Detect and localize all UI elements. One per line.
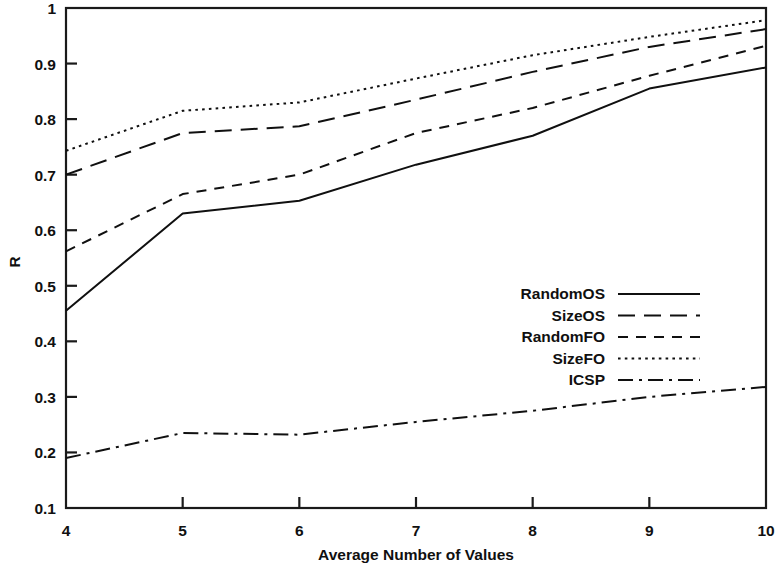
y-tick-label: 0.1 <box>34 500 56 517</box>
y-tick-label: 0.6 <box>34 222 56 239</box>
x-tick-label: 8 <box>528 522 537 539</box>
y-tick-label: 0.8 <box>34 111 56 128</box>
y-tick-label: 0.7 <box>34 167 56 184</box>
x-tick-label: 6 <box>295 522 304 539</box>
y-tick-label: 1 <box>47 0 56 17</box>
x-axis-ticks: 45678910 <box>62 497 775 539</box>
series-line-icsp <box>66 387 766 458</box>
legend-label-sizeos: SizeOS <box>552 307 605 324</box>
x-tick-label: 5 <box>178 522 187 539</box>
legend-label-icsp: ICSP <box>569 371 605 388</box>
legend-label-randomos: RandomOS <box>521 285 605 302</box>
legend-label-randomfo: RandomFO <box>521 328 605 345</box>
y-tick-label: 0.4 <box>34 333 56 350</box>
y-tick-label: 0.2 <box>34 444 56 461</box>
y-axis-title: R <box>6 256 23 267</box>
y-axis-title-text: R <box>6 256 23 267</box>
x-tick-label: 4 <box>62 522 71 539</box>
series-line-sizeos <box>66 29 766 175</box>
series-line-randomos <box>66 67 766 310</box>
y-tick-label: 0.9 <box>34 56 56 73</box>
chart-figure: 0.10.20.30.40.50.60.70.80.91 45678910 R … <box>0 0 783 572</box>
x-tick-label: 9 <box>645 522 654 539</box>
line-chart: 0.10.20.30.40.50.60.70.80.91 45678910 R … <box>0 0 783 572</box>
plot-frame <box>66 8 766 508</box>
y-tick-label: 0.5 <box>34 278 56 295</box>
x-tick-label: 7 <box>412 522 421 539</box>
x-axis-title-text: Average Number of Values <box>318 546 514 563</box>
y-axis-ticks: 0.10.20.30.40.50.60.70.80.91 <box>34 0 77 517</box>
series-group <box>66 20 766 458</box>
chart-legend: RandomOSSizeOSRandomFOSizeFOICSP <box>521 285 700 388</box>
y-tick-label: 0.3 <box>34 389 56 406</box>
legend-label-sizefo: SizeFO <box>552 350 605 367</box>
series-line-randomfo <box>66 46 766 252</box>
x-tick-label: 10 <box>757 522 774 539</box>
